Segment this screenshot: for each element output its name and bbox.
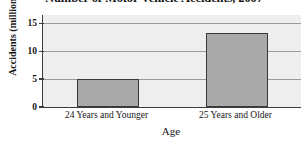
y-axis-tick: [39, 51, 44, 52]
plot-area: 051015: [42, 15, 301, 108]
y-axis-tick-label: 15: [28, 18, 38, 28]
y-axis-tick: [39, 23, 44, 24]
y-axis-tick: [39, 106, 44, 107]
x-axis-tick-label: 24 Years and Younger: [65, 110, 148, 120]
y-axis-title: Accidents (millions): [7, 0, 18, 82]
y-axis-tick: [39, 78, 44, 79]
chart-title: Number of Motor Vehicle Accidents, 2007: [0, 0, 308, 6]
bar: [206, 33, 268, 107]
x-axis-tick-label: 25 Years and Older: [199, 110, 272, 120]
y-axis-tick-label: 0: [32, 102, 37, 112]
y-axis-tick-label: 5: [32, 74, 37, 84]
gridline: [43, 23, 301, 24]
bar-chart: Number of Motor Vehicle Accidents, 2007 …: [0, 0, 308, 143]
x-axis-title: Age: [42, 125, 300, 137]
bar: [77, 79, 139, 107]
y-axis-tick-label: 10: [28, 46, 38, 56]
